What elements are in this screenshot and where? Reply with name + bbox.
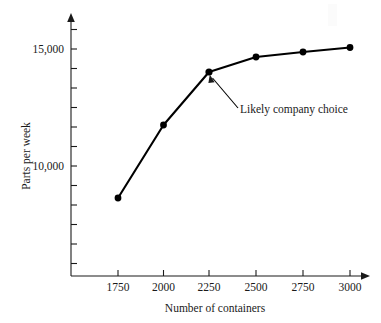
y-axis <box>67 13 75 276</box>
x-tick-label-2250: 2250 <box>198 281 221 293</box>
annotation-label-likely-company-choice: Likely company choice <box>240 103 348 116</box>
data-point-1750[interactable] <box>115 195 122 202</box>
x-tick-label-1750: 1750 <box>107 281 130 293</box>
x-axis-title: Number of containers <box>165 302 266 314</box>
line-chart-canvas: 15,000 10,000 1750 2000 2250 2500 2750 3… <box>0 0 381 323</box>
data-point-2000[interactable] <box>160 122 167 129</box>
x-axis <box>71 272 370 280</box>
x-tick-label-2000: 2000 <box>152 281 175 293</box>
data-point-markers <box>115 44 354 201</box>
y-axis-arrowhead <box>67 13 75 22</box>
data-point-3000[interactable] <box>347 44 354 51</box>
data-point-2250[interactable] <box>205 68 212 75</box>
y-tick-label-15000: 15,000 <box>32 43 64 56</box>
x-tick-label-2750: 2750 <box>292 281 315 293</box>
data-point-2750[interactable] <box>300 49 307 56</box>
x-axis-arrowhead <box>361 272 370 280</box>
data-series-line <box>118 48 350 199</box>
x-tick-label-2500: 2500 <box>245 281 268 293</box>
y-axis-title: Parts per week <box>20 122 33 190</box>
y-axis-ticks <box>71 30 77 264</box>
x-tick-label-3000: 3000 <box>339 281 362 293</box>
y-tick-label-10000: 10,000 <box>32 160 64 173</box>
chart-figure: 15,000 10,000 1750 2000 2250 2500 2750 3… <box>0 0 381 323</box>
annotation-leader <box>208 74 238 108</box>
x-axis-ticks <box>118 270 350 276</box>
data-point-2500[interactable] <box>253 54 260 61</box>
